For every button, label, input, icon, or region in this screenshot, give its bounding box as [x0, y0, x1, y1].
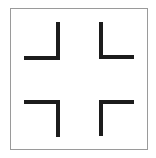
bracket-top-right-horizontal [99, 55, 134, 59]
bracket-top-right-vertical [99, 22, 103, 59]
bracket-bottom-right-horizontal [99, 100, 134, 104]
bracket-bottom-left-horizontal [24, 100, 60, 104]
bracket-top-left-horizontal [24, 56, 60, 60]
bracket-bottom-right-vertical [99, 100, 103, 136]
figure-frame [10, 8, 148, 150]
bracket-bottom-left-vertical [56, 100, 60, 137]
bracket-top-left-vertical [56, 22, 60, 59]
